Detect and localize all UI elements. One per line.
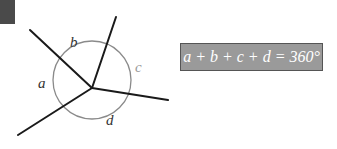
ray-top (92, 17, 116, 88)
angles-diagram: a b c d (0, 0, 337, 149)
label-d: d (106, 112, 114, 128)
label-c: c (135, 59, 142, 75)
formula-box: a + b + c + d = 360° (180, 43, 323, 71)
formula-text: a + b + c + d = 360° (183, 48, 320, 66)
label-b: b (70, 34, 78, 50)
ray-lower-left (18, 88, 92, 135)
label-a: a (38, 75, 46, 91)
angle-circle (53, 41, 131, 119)
